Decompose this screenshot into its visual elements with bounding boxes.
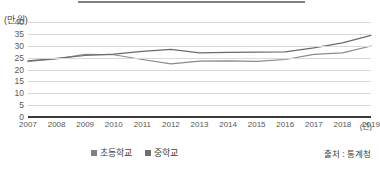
y-axis-tick-label: 25 [15, 53, 24, 63]
caption-divider-rule [78, 1, 305, 3]
x-axis-tick-label: 2013 [191, 120, 209, 129]
x-axis-tick-label: 2008 [48, 120, 66, 129]
gridline [28, 22, 371, 23]
y-axis-tick-label: 35 [15, 29, 24, 39]
x-axis-tick-label: 2011 [134, 120, 151, 129]
x-axis-tick-label: 2014 [219, 120, 237, 129]
x-axis-tick-labels: (년) 200720082009201020112012201320142015… [28, 120, 371, 134]
x-axis-tick-label: 2019 [362, 120, 380, 129]
x-axis-tick-label: 2012 [162, 120, 180, 129]
legend-item-label: 초등학교 [100, 146, 132, 159]
x-axis-tick-label: 2015 [248, 120, 266, 129]
gridline [28, 58, 371, 59]
source-note: 출처 : 통계청 [324, 147, 371, 159]
gridline [28, 70, 371, 71]
y-axis-tick-label: 20 [15, 65, 24, 75]
x-axis-tick-label: 2017 [305, 120, 323, 129]
x-axis-baseline [28, 116, 371, 118]
x-axis-tick-label: 2010 [105, 120, 123, 129]
plot-area [28, 22, 371, 117]
gridline [28, 105, 371, 106]
y-axis-tick-label: 10 [15, 88, 24, 98]
y-axis-tick-labels: 0510152025303540 [0, 22, 24, 117]
legend-item[interactable]: 중학교 [145, 146, 178, 159]
x-axis-tick-label: 2007 [19, 120, 37, 129]
x-axis-tick-label: 2009 [76, 120, 94, 129]
y-axis-tick-label: 5 [19, 100, 24, 110]
y-axis-tick-label: 15 [15, 76, 24, 86]
legend-swatch-icon [145, 150, 151, 156]
gridline [28, 46, 371, 47]
gridline [28, 34, 371, 35]
legend-item[interactable]: 초등학교 [91, 146, 132, 159]
x-axis-tick-label: 2018 [334, 120, 352, 129]
legend-item-label: 중학교 [154, 146, 178, 159]
y-axis-tick-label: 40 [15, 17, 24, 27]
gridline [28, 93, 371, 94]
legend-swatch-icon [91, 150, 97, 156]
series-line-초등학교 [28, 46, 371, 64]
x-axis-tick-label: 2016 [276, 120, 294, 129]
chart-legend: 초등학교중학교 [0, 146, 268, 159]
y-axis-tick-label: 30 [15, 41, 24, 51]
gridline [28, 81, 371, 82]
